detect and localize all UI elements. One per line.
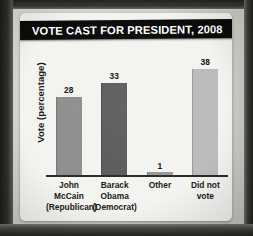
bar-group-other: 1: [138, 45, 182, 175]
bar-rect-obama: [101, 83, 127, 175]
x-tick-label-line: McCain: [46, 191, 92, 202]
photo-border-bottom: [0, 224, 253, 236]
x-tick-label-other: Other: [137, 180, 182, 212]
bar-chart: Vote (percentage) 28 33 1 38: [20, 43, 232, 221]
photo-border-top: [0, 0, 253, 9]
bar-value-label: 33: [110, 72, 119, 80]
bar-group-obama: 33: [92, 45, 136, 175]
chart-title-banner: VOTE CAST FOR PRESIDENT, 2008: [20, 19, 232, 40]
page-title: VOTE CAST FOR PRESIDENT, 2008: [20, 23, 223, 37]
x-axis-line: [46, 175, 228, 177]
photo-border-right: [244, 0, 253, 236]
x-axis-tick-labels: JohnMcCain(Republican) BarackObama(Democ…: [46, 180, 228, 212]
photo-border-left: [0, 0, 13, 236]
x-tick-label-line: vote: [183, 191, 228, 202]
bar-series: 28 33 1 38: [46, 45, 228, 175]
bar-value-label: 28: [64, 86, 73, 94]
bar-rect-mccain: [56, 97, 82, 175]
x-tick-label-line: Obama: [92, 191, 137, 202]
x-tick-label-line: (Democrat): [92, 202, 137, 213]
bar-group-did-not-vote: 38: [183, 45, 227, 175]
x-tick-label-did-not-vote: Did notvote: [183, 180, 228, 212]
photographed-page-backdrop: VOTE CAST FOR PRESIDENT, 2008 Vote (perc…: [0, 0, 253, 236]
x-tick-label-line: John: [46, 180, 92, 191]
bar-value-label: 1: [157, 162, 162, 170]
x-tick-label-obama: BarackObama(Democrat): [92, 180, 137, 212]
bar-group-mccain: 28: [47, 45, 91, 175]
y-axis-label: Vote (percentage): [35, 53, 46, 153]
x-tick-label-line: Barack: [92, 180, 137, 191]
bar-rect-did-not-vote: [192, 69, 218, 175]
chart-card: VOTE CAST FOR PRESIDENT, 2008 Vote (perc…: [20, 13, 232, 221]
x-tick-label-line: Other: [137, 180, 182, 191]
x-tick-label-line: Did not: [183, 180, 228, 191]
bar-value-label: 38: [201, 58, 210, 66]
x-tick-label-line: (Republican): [46, 202, 92, 213]
x-tick-label-mccain: JohnMcCain(Republican): [46, 180, 92, 212]
